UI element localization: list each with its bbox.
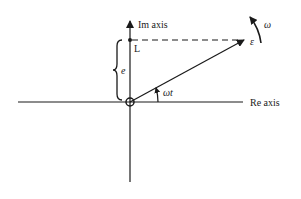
- angle-label: ωt: [163, 87, 173, 98]
- point-L-label: L: [134, 43, 140, 54]
- angle-arc: [156, 88, 158, 102]
- phasor-diagram: Im axis Re axis L e ε ω ωt: [0, 0, 301, 199]
- phasor-vector: [130, 40, 244, 102]
- point-L-marker: [128, 38, 132, 42]
- imaginary-axis-label: Im axis: [138, 19, 168, 30]
- phasor-label: ε: [250, 36, 254, 47]
- angular-velocity-label: ω: [264, 19, 271, 30]
- real-axis-label: Re axis: [250, 97, 280, 108]
- height-label: e: [121, 65, 126, 76]
